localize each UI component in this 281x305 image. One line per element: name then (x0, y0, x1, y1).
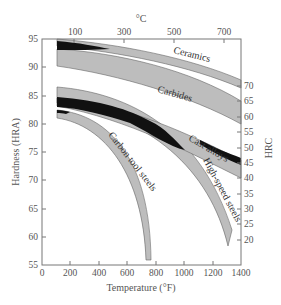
y-tick-95: 95 (29, 34, 39, 44)
y-tick-70: 70 (29, 175, 39, 185)
right-axis-title: HRC (263, 137, 274, 158)
hrc-tick-65: 65 (244, 96, 254, 106)
x-axis-title: Temperature (°F) (106, 282, 175, 294)
hrc-tick-60: 60 (244, 112, 254, 122)
y-axis-title: Hardness (HRA) (10, 118, 22, 186)
hardness-temperature-chart: 55 60 65 70 75 80 85 90 95 Hardness (HRA… (0, 0, 281, 305)
x-tick-400: 400 (92, 268, 107, 278)
hrc-tick-50: 50 (244, 143, 254, 153)
y-tick-55: 55 (29, 260, 39, 270)
x-tick-1200: 1200 (204, 268, 223, 278)
carbon-tool-steels-band (57, 110, 151, 260)
x-tick-200: 200 (63, 268, 78, 278)
left-y-axis: 55 60 65 70 75 80 85 90 95 Hardness (HRA… (10, 34, 46, 270)
x-tick-1000: 1000 (175, 268, 194, 278)
hrc-tick-40: 40 (244, 173, 254, 183)
top-tick-300: 300 (117, 27, 132, 37)
top-axis-title: °C (136, 13, 147, 24)
hrc-tick-25: 25 (244, 219, 254, 229)
hrc-tick-55: 55 (244, 127, 254, 137)
y-tick-60: 60 (29, 232, 39, 242)
hrc-tick-45: 45 (244, 158, 254, 168)
y-tick-75: 75 (29, 147, 39, 157)
hrc-tick-30: 30 (244, 204, 254, 214)
y-tick-90: 90 (29, 62, 39, 72)
top-tick-700: 700 (217, 27, 232, 37)
y-tick-65: 65 (29, 204, 39, 214)
y-tick-80: 80 (29, 119, 39, 129)
top-tick-100: 100 (68, 27, 83, 37)
hrc-tick-70: 70 (244, 81, 254, 91)
x-tick-1400: 1400 (232, 268, 251, 278)
top-tick-500: 500 (167, 27, 182, 37)
x-tick-0: 0 (40, 268, 45, 278)
y-tick-85: 85 (29, 91, 39, 101)
x-tick-800: 800 (149, 268, 164, 278)
right-y-axis: 70 65 60 55 50 45 40 35 30 25 20 HRC (237, 81, 274, 245)
bottom-x-axis: 0 200 400 600 800 1000 1200 1400 Tempera… (40, 261, 251, 294)
hrc-tick-20: 20 (244, 235, 254, 245)
hrc-tick-35: 35 (244, 189, 254, 199)
x-tick-600: 600 (120, 268, 135, 278)
